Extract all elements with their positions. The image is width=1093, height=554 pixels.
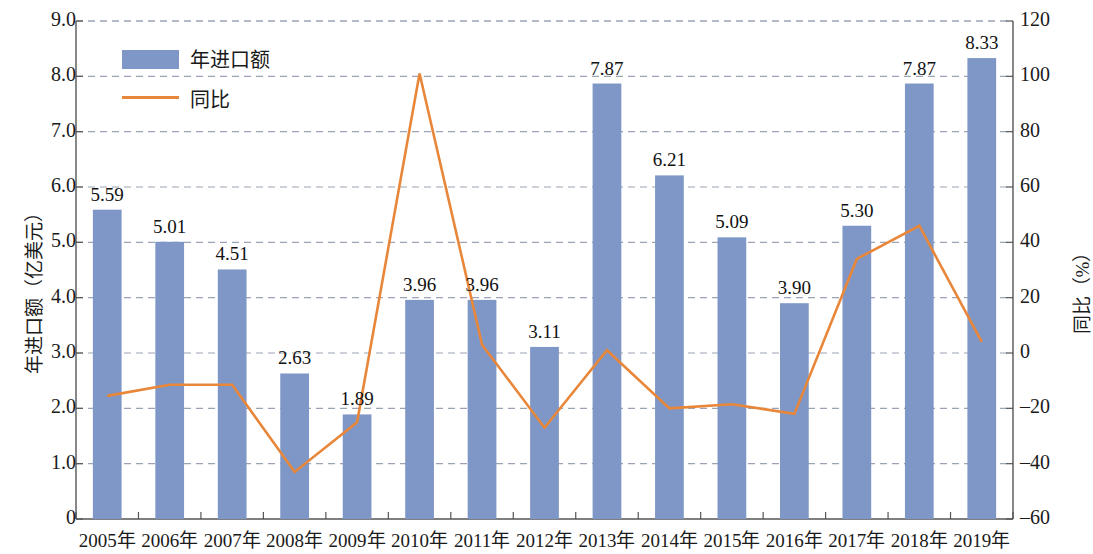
y-tick-label-left: 6.0	[18, 174, 76, 197]
x-tick-label: 2019年	[945, 525, 1019, 552]
bar[interactable]	[405, 300, 434, 519]
bar-value-label: 5.09	[701, 211, 763, 233]
bar[interactable]	[718, 237, 747, 519]
bar-value-label: 3.96	[388, 274, 450, 296]
plot-area	[0, 0, 1093, 554]
legend-label-bar: 年进口额	[190, 44, 270, 73]
bar[interactable]	[93, 210, 122, 519]
y-tick-label-right: 120	[1020, 8, 1080, 31]
bar-value-label: 5.01	[138, 216, 200, 238]
bar[interactable]	[905, 84, 934, 519]
bar[interactable]	[593, 84, 622, 519]
bar-value-label: 5.30	[826, 200, 888, 222]
y-tick-label-left: 4.0	[18, 285, 76, 308]
y-tick-label-right: –60	[1020, 506, 1080, 529]
bar-value-label: 1.89	[326, 388, 388, 410]
bar-value-label: 3.11	[513, 321, 575, 343]
y-tick-label-left: 7.0	[18, 119, 76, 142]
bar-value-label: 3.90	[763, 277, 825, 299]
bar-value-label: 3.96	[451, 274, 513, 296]
y-tick-label-right: 100	[1020, 63, 1080, 86]
bar-value-label: 7.87	[888, 58, 950, 80]
y-tick-label-right: 0	[1020, 340, 1080, 363]
legend-swatch-bar-icon	[122, 50, 179, 69]
y-tick-label-left: 9.0	[18, 8, 76, 31]
bar-value-label: 7.87	[576, 58, 638, 80]
bar-value-label: 8.33	[951, 32, 1013, 54]
bar[interactable]	[280, 373, 309, 519]
y-tick-label-right: 80	[1020, 119, 1080, 142]
bar[interactable]	[967, 58, 996, 519]
bar[interactable]	[468, 300, 497, 519]
y-tick-label-left: 8.0	[18, 63, 76, 86]
bar-value-label: 2.63	[263, 347, 325, 369]
bar[interactable]	[218, 269, 247, 519]
y-tick-label-left: 2.0	[18, 395, 76, 418]
y-tick-label-left: 3.0	[18, 340, 76, 363]
y-tick-label-left: 0	[18, 506, 76, 529]
bar[interactable]	[155, 242, 184, 519]
bar-value-label: 4.51	[201, 243, 263, 265]
y-tick-label-left: 5.0	[18, 229, 76, 252]
bar-value-label: 6.21	[638, 149, 700, 171]
chart-container: 年进口额（亿美元） 同比（%） 01.02.03.04.05.06.07.08.…	[0, 0, 1093, 554]
y-tick-label-right: 40	[1020, 229, 1080, 252]
bar[interactable]	[530, 347, 559, 519]
bar[interactable]	[655, 175, 684, 519]
y-tick-label-right: –40	[1020, 451, 1080, 474]
bar-value-label: 5.59	[76, 184, 138, 206]
legend-label-line: 同比	[190, 84, 230, 113]
y-tick-label-right: 20	[1020, 285, 1080, 308]
bar[interactable]	[842, 226, 871, 519]
y-tick-label-right: –20	[1020, 395, 1080, 418]
y-tick-label-right: 60	[1020, 174, 1080, 197]
y-tick-label-left: 1.0	[18, 451, 76, 474]
legend-swatch-line-icon	[122, 96, 179, 99]
